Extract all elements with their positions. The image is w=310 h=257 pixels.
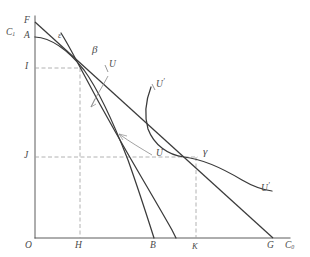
y-tick-I: I [25,62,28,72]
U-lower-pointer [119,134,152,155]
u-prime-lower-label-text: U [261,183,268,193]
figure-canvas: C1 C0 F A I J O H B K G β γ ε U U' U U' [0,0,310,257]
transformation-curve-AB [35,37,154,238]
x-tick-O: O [25,241,32,251]
u-prime-upper-label: U' [156,78,165,89]
point-label-beta: β [92,44,97,55]
u-prime-lower-label-mark: ' [268,181,270,190]
u-lower-label: U [156,149,163,159]
x-axis-label: C0 [285,241,294,251]
guide-lines-gamma [35,157,198,238]
u-prime-lower-label: U' [261,182,270,193]
y-tick-F: F [24,16,30,26]
u-prime-upper-label-text: U [156,79,163,89]
epsilon-label: ε [58,31,61,40]
u-prime-label-tick [152,84,155,90]
x-axis-label-sub: 0 [291,244,294,250]
U-upper-pointer-head [91,99,96,107]
x-tick-H: H [75,241,82,251]
y-axis-label: C1 [6,28,15,38]
guide-lines-beta [35,68,82,238]
u-upper-label: U [109,60,116,70]
diagram-svg [0,0,310,257]
y-axis-label-sub: 1 [12,31,15,37]
y-tick-A: A [24,31,30,41]
y-tick-J: J [24,151,28,161]
u-label-tick [105,65,108,72]
u-prime-upper-label-mark: ' [163,77,165,86]
point-label-gamma: γ [203,146,207,157]
x-tick-G: G [267,241,274,251]
budget-line-FG [35,22,273,238]
x-tick-B: B [150,241,156,251]
x-tick-K: K [192,242,198,251]
U-lower-pointer-line [119,134,152,155]
axes-group [35,16,290,238]
